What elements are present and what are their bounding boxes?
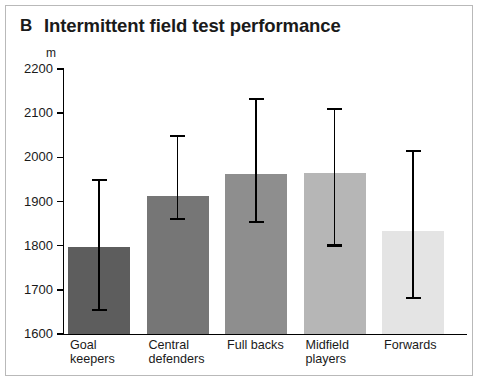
- y-tick-label: 1700: [0, 283, 53, 296]
- error-bar-cap-upper: [327, 108, 342, 110]
- y-tick-mark: [57, 201, 64, 202]
- error-bar-line: [334, 109, 336, 245]
- error-bar-line: [255, 99, 257, 222]
- error-bar-cap-upper: [170, 135, 185, 137]
- error-bar-line: [412, 151, 414, 298]
- x-category-label: Midfieldplayers: [306, 339, 349, 366]
- y-tick-label: 1800: [0, 239, 53, 252]
- x-axis-line: [63, 334, 467, 335]
- y-tick-label: 1600: [0, 327, 53, 340]
- error-bar-cap-lower: [249, 221, 264, 223]
- y-tick-mark: [57, 333, 64, 334]
- y-tick-label: 1900: [0, 195, 53, 208]
- y-tick-mark: [57, 245, 64, 246]
- x-category-label: Goalkeepers: [70, 339, 115, 366]
- y-tick-label: 2000: [0, 150, 53, 163]
- x-category-label: Forwards: [384, 339, 436, 353]
- error-bar-cap-lower: [406, 297, 421, 299]
- error-bar-cap-upper: [249, 98, 264, 100]
- error-bar-line: [177, 136, 179, 219]
- error-bar-cap-lower: [170, 218, 185, 220]
- error-bar-cap-lower: [92, 309, 107, 311]
- y-tick-mark: [57, 157, 64, 158]
- error-bar-cap-upper: [92, 179, 107, 181]
- error-bar-cap-upper: [406, 150, 421, 152]
- y-tick-mark: [57, 112, 64, 113]
- chart-frame: B Intermittent field test performance m …: [5, 5, 473, 376]
- y-tick-mark: [57, 289, 64, 290]
- y-tick-mark: [57, 68, 64, 69]
- y-tick-label: 2200: [0, 62, 53, 75]
- error-bar-cap-lower: [327, 244, 342, 246]
- plot-area: 1600170018001900200021002200 Goalkeepers…: [6, 6, 481, 384]
- x-category-label: Full backs: [227, 339, 284, 353]
- y-tick-label: 2100: [0, 106, 53, 119]
- x-category-label: Centraldefenders: [149, 339, 205, 366]
- error-bar-line: [98, 180, 100, 309]
